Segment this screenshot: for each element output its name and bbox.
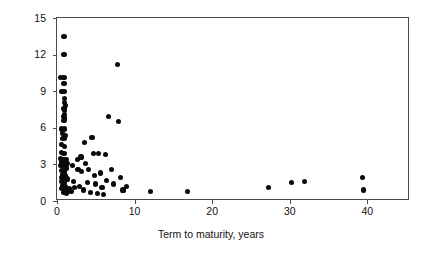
data-point [93,181,98,186]
data-point [86,167,91,172]
x-axis-title: Term to maturity, years [0,228,422,240]
data-point [85,180,90,185]
y-tick-label: 12 [6,49,46,60]
x-tick-mark [290,199,291,204]
y-tick-mark [53,128,58,129]
data-point [83,161,88,166]
data-point [124,184,129,189]
plot-area-frame: 03691215 010203040 [56,17,409,200]
data-point [95,191,100,196]
data-point [266,185,271,190]
data-point [98,170,103,175]
data-point [361,187,366,192]
y-tick-label: 0 [6,196,46,207]
data-point [148,189,153,194]
data-point [289,180,294,185]
data-point [360,175,365,180]
y-tick-label: 9 [6,86,46,97]
x-tick-label: 40 [347,206,387,217]
scatter-chart-figure: 03691215 010203040 Term to maturity, yea… [0,0,422,255]
x-tick-mark [57,199,58,204]
data-point [61,151,66,156]
y-tick-label: 6 [6,122,46,133]
data-point [115,62,120,67]
data-point [61,89,66,94]
data-point [61,34,66,39]
x-tick-mark [367,199,368,204]
data-point [116,119,121,124]
data-point [92,173,97,178]
data-point [78,154,83,159]
data-point [71,179,76,184]
data-point [106,114,111,119]
data-point [96,151,101,156]
data-point [81,187,86,192]
data-point [91,151,96,156]
data-point [70,163,75,168]
data-point [62,136,67,141]
x-tick-label: 30 [270,206,310,217]
data-point [185,189,190,194]
data-points-layer [57,18,408,199]
data-point [61,75,66,80]
data-point [61,52,66,57]
data-point [109,167,114,172]
x-tick-label: 0 [37,206,77,217]
data-point [61,81,66,86]
data-point [89,135,94,140]
data-point [101,192,106,197]
x-tick-label: 10 [115,206,155,217]
y-tick-mark [53,18,58,19]
data-point [99,185,104,190]
data-point [62,144,67,149]
x-tick-mark [212,199,213,204]
data-point [111,181,116,186]
data-point [61,118,66,123]
data-point [103,152,108,157]
x-tick-label: 20 [192,206,232,217]
y-tick-mark [53,164,58,165]
data-point [88,190,93,195]
data-point [104,178,109,183]
data-point [118,175,123,180]
x-tick-mark [135,199,136,204]
data-point [302,179,307,184]
y-tick-label: 3 [6,159,46,170]
data-point [79,169,84,174]
data-point [82,140,87,145]
y-tick-label: 15 [6,13,46,24]
y-tick-mark [53,55,58,56]
y-tick-mark [53,91,58,92]
